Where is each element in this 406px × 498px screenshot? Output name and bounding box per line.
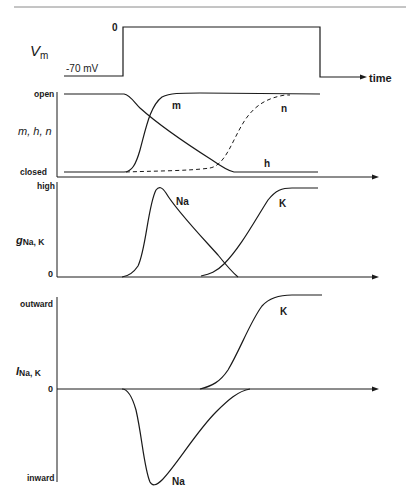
gates-arrowhead-icon (372, 175, 379, 180)
m-label: m (172, 100, 181, 111)
g-arrowhead-icon (372, 275, 379, 280)
g-k-label: K (279, 198, 287, 209)
i-na-curve (122, 389, 250, 485)
i-outward-tick: outward (20, 299, 53, 309)
current-panel: outward 0 inward INa, K Na K (16, 295, 379, 487)
vm-top-value: 0 (112, 22, 118, 33)
h-label: h (264, 158, 270, 169)
i-na-label: Na (172, 476, 185, 487)
g-high-tick: high (37, 181, 55, 191)
gates-axis-label: m, h, n (18, 125, 52, 137)
g-k-curve (201, 188, 318, 276)
conductance-panel: high 0 gNa, K Na K (15, 181, 379, 280)
gates-open-tick: open (34, 89, 54, 99)
time-label: time (369, 72, 392, 84)
time-arrowhead-icon (360, 75, 367, 80)
g-na-label: Na (176, 196, 189, 207)
gates-closed-tick: closed (20, 167, 47, 177)
vm-panel: Vm 0 -70 mV time (30, 22, 392, 84)
i-k-curve (200, 295, 322, 389)
gates-panel: open closed m, h, n m n h (18, 89, 379, 180)
i-k-label: K (280, 306, 288, 317)
n-label: n (281, 103, 287, 114)
i-zero-tick: 0 (48, 384, 53, 394)
vm-axis-label: Vm (30, 42, 48, 61)
i-arrowhead-icon (372, 387, 379, 392)
hodgkin-huxley-figure: Vm 0 -70 mV time open closed m, h, n m n… (0, 0, 406, 498)
g-axis-label: gNa, K (15, 234, 45, 247)
i-axis-label: INa, K (16, 365, 42, 378)
g-zero-tick: 0 (48, 269, 53, 279)
i-inward-tick: inward (27, 473, 54, 483)
vm-trace (64, 27, 360, 77)
vm-resting-value: -70 mV (66, 63, 99, 74)
h-curve (64, 94, 318, 172)
